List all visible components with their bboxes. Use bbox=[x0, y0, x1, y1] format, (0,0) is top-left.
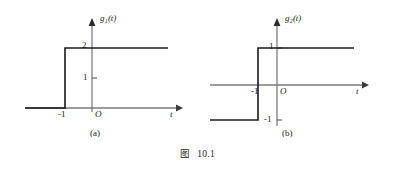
figure-caption: 图10.1 bbox=[0, 146, 395, 160]
y-axis-label-b-base: g bbox=[285, 13, 290, 23]
y-axis-label-b-arg: (t) bbox=[293, 13, 302, 23]
x-axis-label-a: t bbox=[170, 110, 173, 119]
y-axis-arrow-a bbox=[89, 18, 96, 26]
y-axis-label-b: g2(t) bbox=[285, 14, 301, 24]
x-axis-arrow-a bbox=[176, 105, 183, 112]
chart-a-svg bbox=[0, 0, 197, 145]
y-tick-label-1-a: 1 bbox=[83, 73, 88, 82]
y-axis-label-a-arg: (t) bbox=[108, 13, 117, 23]
x-axis-arrow-b bbox=[362, 82, 369, 89]
x-axis-label-b: t bbox=[356, 87, 359, 96]
panel-sublabel-a: (a) bbox=[90, 128, 100, 138]
y-tick-label-2-a: 2 bbox=[82, 41, 87, 50]
panel-sublabel-b: (b) bbox=[282, 128, 293, 138]
figure-caption-prefix: 图 bbox=[180, 149, 190, 159]
y-axis-label-a: g1(t) bbox=[100, 14, 116, 24]
origin-label-b: O bbox=[280, 87, 287, 96]
chart-panel-b: g2(t) t O -1 -1 1 (b) bbox=[196, 0, 393, 145]
y-axis-arrow-b bbox=[274, 18, 281, 26]
y-axis-label-a-base: g bbox=[100, 13, 105, 23]
figure-caption-number: 10.1 bbox=[197, 149, 215, 159]
x-tick-label-neg1-b: -1 bbox=[251, 87, 259, 96]
origin-label-a: O bbox=[95, 110, 102, 119]
y-tick-label-neg1-b: -1 bbox=[264, 115, 272, 124]
x-tick-label-neg1-a: -1 bbox=[58, 110, 66, 119]
y-tick-label-1-b: 1 bbox=[269, 42, 274, 51]
step-curve-b bbox=[210, 48, 354, 120]
chart-panel-a: g1(t) t O -1 1 2 (a) bbox=[0, 0, 197, 145]
figure-container: g1(t) t O -1 1 2 (a) g2(t) t O -1 -1 1 bbox=[0, 0, 395, 169]
